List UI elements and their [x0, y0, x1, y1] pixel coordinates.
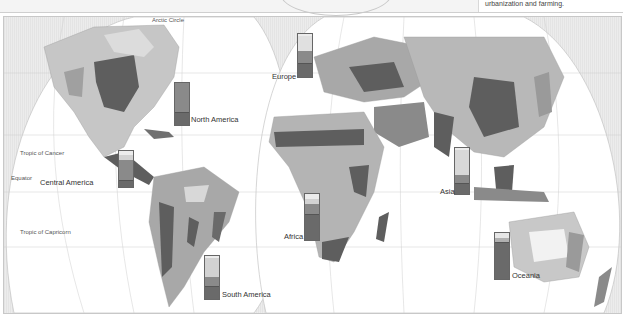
- region-label-oceania: Oceania: [512, 271, 540, 280]
- equator-label: Equator: [11, 175, 32, 181]
- top-caption-strip: urbanization and farming.: [0, 0, 623, 13]
- bar-segment-dark: [175, 112, 189, 125]
- bar-segment-dark: [495, 242, 509, 279]
- oceania-bar: [494, 232, 510, 280]
- bar-segment-medium: [119, 160, 133, 179]
- bar-segment-light: [298, 36, 312, 51]
- world-map: Arctic Circle Tropic of Cancer Equator T…: [3, 16, 622, 314]
- bar-segment-medium: [455, 175, 469, 183]
- central-america-bar: [118, 150, 134, 188]
- bar-segment-dark: [119, 180, 133, 187]
- bar-segment-medium: [175, 83, 189, 112]
- bar-segment-medium: [205, 277, 219, 286]
- region-label-south-america: South America: [222, 290, 271, 299]
- bar-segment-medium: [305, 204, 319, 214]
- bar-segment-dark: [305, 214, 319, 240]
- asia-bar: [454, 147, 470, 195]
- bar-segment-dark: [298, 63, 312, 77]
- caption-box: urbanization and farming.: [478, 0, 623, 12]
- bar-segment-medium: [298, 51, 312, 63]
- region-label-central-america: Central America: [40, 178, 93, 187]
- caption-text: urbanization and farming.: [485, 0, 564, 7]
- map-arc-decoration: [280, 0, 392, 16]
- south-america-bar: [204, 255, 220, 300]
- region-label-asia: Asia: [440, 187, 455, 196]
- tropic-of-cancer-label: Tropic of Cancer: [20, 150, 64, 156]
- region-label-north-america: North America: [191, 115, 239, 124]
- bar-segment-dark: [455, 183, 469, 194]
- bar-segment-light: [205, 258, 219, 277]
- region-label-europe: Europe: [272, 72, 296, 81]
- arctic-circle-label: Arctic Circle: [152, 17, 184, 23]
- region-label-africa: Africa: [284, 232, 303, 241]
- north-america-bar: [174, 82, 190, 126]
- tropic-of-capricorn-label: Tropic of Capricorn: [20, 229, 71, 235]
- bar-segment-light: [455, 150, 469, 175]
- bar-segment-dark: [205, 286, 219, 299]
- africa-bar: [304, 193, 320, 241]
- europe-bar: [297, 33, 313, 78]
